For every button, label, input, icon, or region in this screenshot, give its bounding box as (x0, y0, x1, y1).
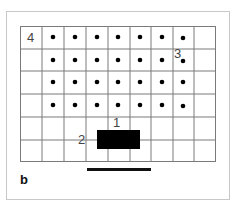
black-block (97, 130, 140, 149)
label-1: 1 (113, 116, 120, 129)
panel-letter: b (20, 172, 28, 187)
scale-bar (87, 168, 151, 171)
label-2: 2 (78, 133, 85, 146)
label-4: 4 (27, 31, 34, 44)
label-3: 3 (174, 47, 181, 60)
